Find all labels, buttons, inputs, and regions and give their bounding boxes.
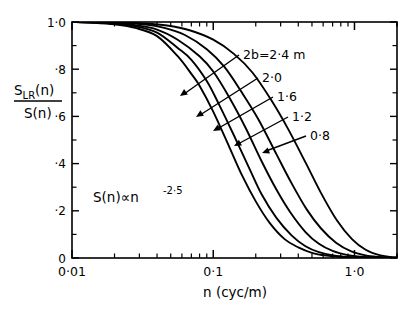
series-label-0: 2b=2·4 m bbox=[243, 47, 305, 62]
y-tick-label: ·2 bbox=[55, 204, 66, 218]
y-tick-label: ·4 bbox=[55, 157, 66, 171]
x-axis-label: n (cyc/m) bbox=[203, 284, 267, 300]
spectrum-law-text: S(n)∝n bbox=[93, 189, 139, 205]
figure-container: 0·2·4·6·81·0 0·010·11·0 2b=2·4 m2·01·61·… bbox=[0, 0, 411, 312]
series-label-2: 1·6 bbox=[277, 89, 297, 104]
y-axis-label-denominator: S(n) bbox=[24, 105, 52, 121]
y-axis-label-numerator-subscript: LR bbox=[23, 90, 36, 101]
spectrum-law-exponent: -2·5 bbox=[163, 185, 183, 196]
series-label-4: 0·8 bbox=[310, 128, 330, 143]
x-tick-label: 0·01 bbox=[58, 264, 86, 279]
y-tick-label: 1·0 bbox=[47, 16, 66, 30]
y-tick-label: ·8 bbox=[55, 63, 66, 77]
x-tick-label: 1·0 bbox=[345, 264, 365, 279]
x-tick-label: 0·1 bbox=[203, 264, 223, 279]
series-label-1: 2·0 bbox=[262, 70, 282, 85]
y-tick-label: ·6 bbox=[55, 110, 66, 124]
y-axis-label-numerator-arg: (n) bbox=[35, 82, 54, 98]
chart-svg: 0·2·4·6·81·0 0·010·11·0 2b=2·4 m2·01·61·… bbox=[0, 0, 411, 312]
series-label-3: 1·2 bbox=[292, 109, 312, 124]
